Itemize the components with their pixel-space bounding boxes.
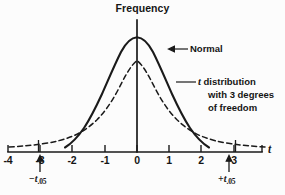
x-tick-label-minus1: -1 [95,155,115,166]
normal-curve-label: Normal [190,44,223,54]
x-tick-label-zero: 0 [127,155,147,166]
t-distribution-figure: Frequency t -4 -3 -2 -1 0 1 2 3 Normal t… [0,0,285,195]
x-tick-label-minus3: -3 [30,155,50,166]
x-axis-ticks [8,145,262,152]
x-tick-label-one: 1 [159,155,179,166]
t-distribution-label-line3: of freedom [208,103,257,113]
x-tick-label-minus4: -4 [0,155,18,166]
x-tick-label-three: 3 [224,155,244,166]
x-tick-label-minus2: -2 [62,155,82,166]
y-axis-title: Frequency [0,3,285,14]
t-distribution-label-line2: with 3 degrees [208,90,274,100]
normal-callout-leader [169,46,189,51]
x-tick-label-two: 2 [191,155,211,166]
x-axis-title: t [268,144,271,156]
t-distribution-label-line1: t distribution [198,77,256,88]
critical-value-label-right: +t.05 [218,174,235,186]
critical-value-label-left: −t.05 [29,174,46,186]
critical-right-subscript: .05 [226,177,235,186]
t-distribution-label-rest: distribution [201,76,256,87]
critical-left-subscript: .05 [37,177,46,186]
